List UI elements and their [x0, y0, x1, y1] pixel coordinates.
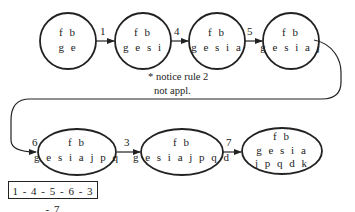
node-fb-gesia-jpqdk: f b g e s i a j p q d k	[242, 128, 322, 174]
rule-note-line1: * notice rule 2	[148, 70, 208, 84]
svg-text:g e s i a: g e s i a	[256, 144, 308, 156]
svg-text:f b: f b	[68, 136, 86, 148]
sequence-box: 1 - 4 - 5 - 6 - 3 - 7	[8, 181, 98, 199]
svg-text:3: 3	[124, 136, 130, 148]
node-fb-gesia: f b g e s i a	[189, 13, 245, 69]
svg-text:g e s i: g e s i	[123, 41, 163, 53]
node-fb-gesiajpqd: f b g e s i a j p q d	[133, 129, 231, 175]
edge-4: 4	[171, 25, 188, 41]
node-fb-gesi: f b g e s i	[115, 13, 171, 69]
svg-text:5: 5	[247, 25, 253, 37]
node-fb-ge: f b g e	[40, 13, 96, 69]
svg-text:6: 6	[32, 136, 38, 148]
node-fb-gesiajpq: f b g e s i a j p q	[34, 129, 120, 175]
edge-1: 1	[96, 25, 114, 41]
rule-note: * notice rule 2 not appl.	[148, 70, 208, 98]
svg-text:g e s i a j p q: g e s i a j p q	[34, 151, 120, 163]
svg-text:4: 4	[174, 25, 180, 37]
svg-text:f b: f b	[273, 130, 291, 142]
svg-text:f b: f b	[173, 136, 191, 148]
node-fb-gesiaj: f b g e s i a j	[260, 13, 321, 69]
svg-text:g e s i a j: g e s i a j	[260, 41, 321, 53]
edge-5: 5	[245, 25, 262, 41]
svg-text:f b: f b	[59, 26, 77, 38]
svg-text:f b: f b	[208, 26, 226, 38]
edge-7: 7	[223, 136, 241, 152]
svg-text:1: 1	[100, 25, 106, 37]
svg-text:g e s i a j p q d: g e s i a j p q d	[133, 151, 231, 163]
svg-text:j p q d k: j p q d k	[254, 157, 309, 169]
edge-3: 3	[117, 136, 140, 152]
svg-text:g e: g e	[58, 41, 77, 53]
svg-text:7: 7	[226, 136, 232, 148]
svg-text:f b: f b	[282, 26, 300, 38]
svg-text:f b: f b	[134, 26, 152, 38]
rule-note-line2: not appl.	[148, 84, 208, 98]
svg-text:g e s i a: g e s i a	[191, 41, 243, 53]
